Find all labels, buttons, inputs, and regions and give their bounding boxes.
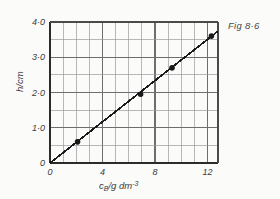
x-tick-label: 4 [100,167,105,177]
data-point [169,65,175,71]
x-axis-label-superscript: -3 [132,180,138,187]
data-point [138,91,144,97]
y-tick-label: 0 [40,158,45,168]
figure-8-6: Fig 8·6 h/cm cB/g dm-3 01·02·03·04·00481… [0,0,280,199]
data-series [50,22,218,163]
x-axis-label-rest: /g dm [108,180,132,191]
figure-caption: Fig 8·6 [228,20,260,31]
y-axis-label: h/cm [14,71,25,92]
y-tick-label: 3·0 [32,52,45,62]
y-tick-label: 4·0 [32,17,45,27]
x-tick-label: 12 [202,167,212,177]
data-point [75,139,81,145]
x-tick-label: 8 [152,167,157,177]
y-tick-label: 1·0 [32,123,45,133]
y-tick-label: 2·0 [32,88,45,98]
plot-area [50,22,218,163]
x-axis-label: cB/g dm-3 [99,180,138,192]
x-tick-label: 0 [47,167,52,177]
data-point [209,33,215,39]
